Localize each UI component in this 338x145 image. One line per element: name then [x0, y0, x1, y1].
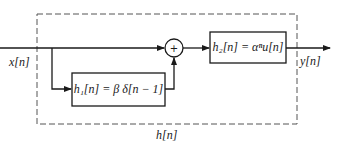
output-label: y[n]: [300, 55, 321, 67]
block-diagram: +: [0, 0, 338, 145]
h2-label: h₂[n] = αⁿu[n]: [210, 32, 286, 63]
plus-icon: +: [170, 43, 178, 54]
h1-label: h₁[n] = β δ[n − 1]: [72, 73, 165, 106]
branch-line: [52, 48, 71, 89]
input-label: x[n]: [9, 56, 30, 68]
system-label: h[n]: [156, 129, 177, 141]
h1-output-line: [165, 58, 174, 89]
system-boundary: [37, 14, 297, 124]
